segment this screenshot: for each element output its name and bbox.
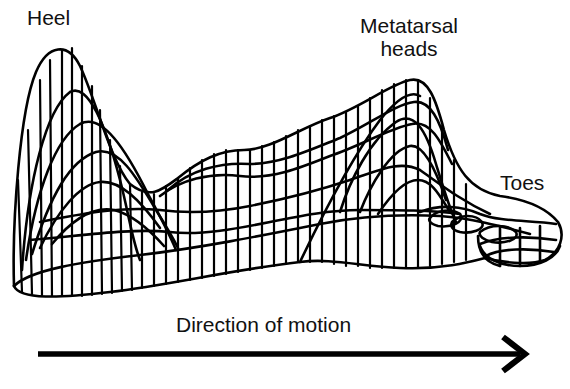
heel-label: Heel bbox=[27, 6, 70, 29]
metatarsal-label-line1: Metatarsal bbox=[352, 14, 466, 37]
metatarsal-label-line2: heads bbox=[352, 37, 466, 60]
direction-of-motion-label: Direction of motion bbox=[176, 313, 351, 336]
direction-arrow bbox=[38, 337, 525, 371]
plantar-pressure-diagram: Heel Metatarsal heads Toes Direction of … bbox=[0, 0, 570, 389]
toes-label: Toes bbox=[500, 171, 544, 194]
metatarsal-heads-label: Metatarsal heads bbox=[352, 14, 466, 60]
